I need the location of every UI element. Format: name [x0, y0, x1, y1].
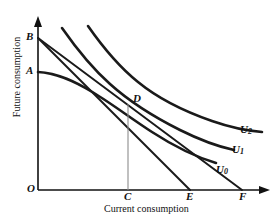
- point-label-e: E: [186, 191, 193, 202]
- point-label-b: B: [26, 31, 33, 42]
- curve-label-u1: U1: [232, 144, 244, 155]
- y-axis-arrow-icon: [34, 16, 42, 27]
- curve-label-u1-base: U: [232, 143, 240, 155]
- curve-label-u2-sub: 2: [248, 127, 252, 136]
- x-axis: [38, 186, 270, 194]
- x-axis-arrow-icon: [259, 186, 270, 194]
- y-axis-title: Future consumption: [12, 29, 22, 125]
- indifference-curve-u0: [38, 72, 216, 163]
- x-axis-title: Current consumption: [104, 204, 189, 214]
- figure-canvas: [0, 0, 277, 222]
- budget-line-bf: [38, 38, 242, 190]
- curve-label-u0-sub: 0: [224, 167, 228, 176]
- point-label-f: F: [239, 191, 246, 202]
- curve-label-u1-sub: 1: [240, 147, 244, 156]
- point-label-c: C: [124, 191, 131, 202]
- intertemporal-consumption-figure: O A B C D E F U0 U1 U2 Current consumpti…: [0, 0, 277, 222]
- point-label-d: D: [133, 93, 141, 104]
- curve-label-u0-base: U: [216, 163, 224, 175]
- indifference-curve-u2: [88, 26, 262, 132]
- curve-label-u0: U0: [216, 164, 228, 175]
- curve-label-u2: U2: [240, 124, 252, 135]
- point-label-a: A: [26, 65, 33, 76]
- point-label-o: O: [27, 183, 35, 194]
- curve-label-u2-base: U: [240, 123, 248, 135]
